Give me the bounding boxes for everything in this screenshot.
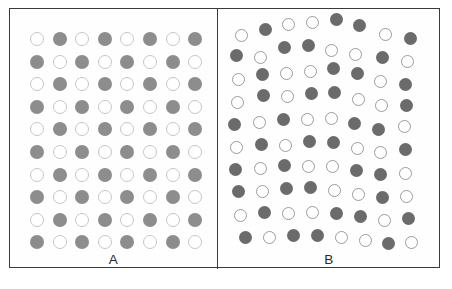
open-circle xyxy=(253,116,266,129)
filled-circle xyxy=(143,168,157,182)
filled-circle xyxy=(30,100,44,114)
panel-a-dot-layer xyxy=(10,9,217,269)
filled-circle xyxy=(311,229,324,242)
filled-circle xyxy=(98,77,112,91)
filled-circle xyxy=(376,51,389,64)
open-circle xyxy=(30,77,44,91)
open-circle xyxy=(143,145,157,159)
filled-circle xyxy=(120,235,134,249)
open-circle xyxy=(400,190,413,203)
open-circle xyxy=(349,48,362,61)
open-circle xyxy=(306,206,319,219)
filled-circle xyxy=(188,213,202,227)
open-circle xyxy=(281,90,294,103)
open-circle xyxy=(306,16,319,29)
panel-b: B xyxy=(218,9,440,269)
filled-circle xyxy=(230,49,243,62)
filled-circle xyxy=(143,122,157,136)
filled-circle xyxy=(400,99,413,112)
filled-circle xyxy=(30,145,44,159)
filled-circle xyxy=(75,100,89,114)
filled-circle xyxy=(53,168,67,182)
figure-frame: A B xyxy=(9,8,440,268)
open-circle xyxy=(143,190,157,204)
open-circle xyxy=(254,162,267,175)
filled-circle xyxy=(30,55,44,69)
open-circle xyxy=(166,32,180,46)
filled-circle xyxy=(30,235,44,249)
open-circle xyxy=(335,231,348,244)
open-circle xyxy=(328,184,341,197)
filled-circle xyxy=(399,78,412,91)
filled-circle xyxy=(98,122,112,136)
open-circle xyxy=(374,75,387,88)
filled-circle xyxy=(257,89,270,102)
filled-circle xyxy=(53,122,67,136)
filled-circle xyxy=(305,87,318,100)
filled-circle xyxy=(120,145,134,159)
filled-circle xyxy=(327,62,340,75)
filled-circle xyxy=(53,213,67,227)
filled-circle xyxy=(399,143,412,156)
open-circle xyxy=(166,77,180,91)
open-circle xyxy=(98,100,112,114)
filled-circle xyxy=(303,135,316,148)
open-circle xyxy=(263,231,276,244)
open-circle xyxy=(374,146,387,159)
open-circle xyxy=(230,141,243,154)
open-circle xyxy=(98,235,112,249)
caption-strip xyxy=(0,281,452,289)
open-circle xyxy=(279,139,292,152)
open-circle xyxy=(232,73,245,86)
filled-circle xyxy=(98,213,112,227)
open-circle xyxy=(120,168,134,182)
open-circle xyxy=(234,209,247,222)
filled-circle xyxy=(229,163,242,176)
filled-circle xyxy=(53,77,67,91)
open-circle xyxy=(143,100,157,114)
open-circle xyxy=(75,77,89,91)
open-circle xyxy=(188,235,202,249)
filled-circle xyxy=(143,77,157,91)
filled-circle xyxy=(372,123,385,136)
panel-b-label: B xyxy=(218,252,440,267)
open-circle xyxy=(325,44,338,57)
open-circle xyxy=(280,67,293,80)
filled-circle xyxy=(402,212,415,225)
filled-circle xyxy=(278,159,291,172)
filled-circle xyxy=(404,32,417,45)
filled-circle xyxy=(188,32,202,46)
open-circle xyxy=(30,32,44,46)
filled-circle xyxy=(120,55,134,69)
open-circle xyxy=(398,120,411,133)
filled-circle xyxy=(98,168,112,182)
filled-circle xyxy=(53,32,67,46)
open-circle xyxy=(326,160,339,173)
open-circle xyxy=(143,235,157,249)
open-circle xyxy=(325,112,338,125)
open-circle xyxy=(120,213,134,227)
open-circle xyxy=(188,100,202,114)
filled-circle xyxy=(259,23,272,36)
open-circle xyxy=(75,122,89,136)
open-circle xyxy=(399,167,412,180)
filled-circle xyxy=(120,100,134,114)
filled-circle xyxy=(166,100,180,114)
filled-circle xyxy=(75,190,89,204)
open-circle xyxy=(120,32,134,46)
open-circle xyxy=(302,160,315,173)
filled-circle xyxy=(120,190,134,204)
filled-circle xyxy=(98,32,112,46)
open-circle xyxy=(254,51,267,64)
filled-circle xyxy=(228,118,241,131)
figure-root: A B xyxy=(0,0,452,289)
filled-circle xyxy=(143,32,157,46)
filled-circle xyxy=(75,145,89,159)
open-circle xyxy=(53,55,67,69)
open-circle xyxy=(352,93,365,106)
filled-circle xyxy=(239,231,252,244)
open-circle xyxy=(378,214,391,227)
open-circle xyxy=(351,142,364,155)
open-circle xyxy=(401,55,414,68)
filled-circle xyxy=(376,191,389,204)
